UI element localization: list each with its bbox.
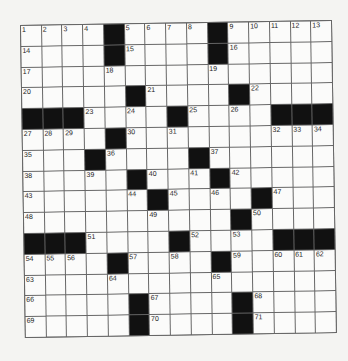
grid-cell[interactable]: 67 <box>150 294 170 314</box>
grid-cell[interactable]: 59 <box>232 251 252 271</box>
grid-cell[interactable] <box>87 295 107 315</box>
grid-cell[interactable] <box>65 212 85 232</box>
grid-cell[interactable] <box>65 191 85 211</box>
grid-cell[interactable] <box>293 209 313 229</box>
grid-cell[interactable] <box>147 149 167 169</box>
grid-cell[interactable]: 10 <box>249 22 269 42</box>
grid-cell[interactable]: 33 <box>292 125 312 145</box>
grid-cell[interactable]: 51 <box>86 233 106 253</box>
grid-cell[interactable]: 69 <box>26 317 46 337</box>
grid-cell[interactable]: 36 <box>106 149 126 169</box>
grid-cell[interactable]: 5 <box>125 24 145 44</box>
grid-cell[interactable]: 9 <box>228 22 248 42</box>
grid-cell[interactable]: 23 <box>85 108 105 128</box>
grid-cell[interactable] <box>293 167 313 187</box>
grid-cell[interactable] <box>191 273 211 293</box>
grid-cell[interactable] <box>291 84 311 104</box>
grid-cell[interactable]: 30 <box>126 128 146 148</box>
grid-cell[interactable]: 48 <box>24 213 44 233</box>
grid-cell[interactable]: 4 <box>83 25 103 45</box>
grid-cell[interactable] <box>270 43 290 63</box>
grid-cell[interactable] <box>272 147 292 167</box>
grid-cell[interactable]: 37 <box>210 148 230 168</box>
grid-cell[interactable] <box>86 212 106 232</box>
grid-cell[interactable]: 24 <box>126 107 146 127</box>
grid-cell[interactable] <box>43 88 63 108</box>
grid-cell[interactable] <box>107 212 127 232</box>
grid-cell[interactable] <box>316 312 336 332</box>
grid-cell[interactable] <box>229 64 249 84</box>
grid-cell[interactable]: 1 <box>21 26 41 46</box>
grid-cell[interactable] <box>149 232 169 252</box>
grid-cell[interactable] <box>188 65 208 85</box>
grid-cell[interactable]: 27 <box>23 130 43 150</box>
grid-cell[interactable] <box>147 107 167 127</box>
grid-cell[interactable] <box>252 230 272 250</box>
grid-cell[interactable]: 19 <box>208 64 228 84</box>
grid-cell[interactable] <box>87 274 107 294</box>
grid-cell[interactable]: 70 <box>150 315 170 335</box>
grid-cell[interactable]: 63 <box>25 275 45 295</box>
grid-cell[interactable]: 41 <box>189 169 209 189</box>
grid-cell[interactable]: 58 <box>170 252 190 272</box>
grid-cell[interactable] <box>209 85 229 105</box>
grid-cell[interactable] <box>314 167 334 187</box>
grid-cell[interactable] <box>86 191 106 211</box>
grid-cell[interactable]: 47 <box>272 188 292 208</box>
grid-cell[interactable] <box>146 65 166 85</box>
grid-cell[interactable] <box>42 46 62 66</box>
grid-cell[interactable] <box>295 313 315 333</box>
grid-cell[interactable] <box>168 169 188 189</box>
grid-cell[interactable] <box>212 293 232 313</box>
grid-cell[interactable] <box>149 273 169 293</box>
grid-cell[interactable] <box>312 63 332 83</box>
grid-cell[interactable] <box>44 171 64 191</box>
grid-cell[interactable] <box>295 292 315 312</box>
grid-cell[interactable] <box>65 171 85 191</box>
grid-cell[interactable] <box>273 209 293 229</box>
grid-cell[interactable] <box>249 43 269 63</box>
grid-cell[interactable]: 6 <box>145 24 165 44</box>
grid-cell[interactable] <box>291 63 311 83</box>
grid-cell[interactable]: 7 <box>166 23 186 43</box>
grid-cell[interactable]: 42 <box>231 168 251 188</box>
grid-cell[interactable] <box>67 295 87 315</box>
grid-cell[interactable]: 25 <box>188 106 208 126</box>
grid-cell[interactable]: 53 <box>232 230 252 250</box>
grid-cell[interactable]: 49 <box>148 211 168 231</box>
grid-cell[interactable] <box>87 253 107 273</box>
grid-cell[interactable]: 13 <box>311 21 331 41</box>
grid-cell[interactable] <box>170 294 190 314</box>
grid-cell[interactable] <box>292 146 312 166</box>
grid-cell[interactable]: 14 <box>21 46 41 66</box>
grid-cell[interactable]: 61 <box>294 250 314 270</box>
grid-cell[interactable] <box>63 67 83 87</box>
grid-cell[interactable] <box>166 44 186 64</box>
grid-cell[interactable] <box>312 83 332 103</box>
grid-cell[interactable] <box>232 272 252 292</box>
grid-cell[interactable] <box>63 87 83 107</box>
grid-cell[interactable] <box>209 127 229 147</box>
grid-cell[interactable] <box>250 64 270 84</box>
grid-cell[interactable]: 3 <box>62 25 82 45</box>
grid-cell[interactable] <box>188 85 208 105</box>
grid-cell[interactable] <box>85 129 105 149</box>
grid-cell[interactable] <box>88 316 108 336</box>
grid-cell[interactable] <box>191 293 211 313</box>
grid-cell[interactable] <box>293 188 313 208</box>
grid-cell[interactable] <box>209 106 229 126</box>
grid-cell[interactable] <box>251 168 271 188</box>
grid-cell[interactable] <box>211 231 231 251</box>
grid-cell[interactable] <box>64 150 84 170</box>
grid-cell[interactable] <box>105 87 125 107</box>
grid-cell[interactable] <box>315 271 335 291</box>
grid-cell[interactable] <box>106 170 126 190</box>
grid-cell[interactable] <box>167 86 187 106</box>
grid-cell[interactable]: 31 <box>168 127 188 147</box>
grid-cell[interactable]: 39 <box>85 170 105 190</box>
grid-cell[interactable] <box>190 210 210 230</box>
grid-cell[interactable] <box>274 292 294 312</box>
grid-cell[interactable] <box>231 189 251 209</box>
grid-cell[interactable] <box>44 192 64 212</box>
grid-cell[interactable] <box>230 147 250 167</box>
